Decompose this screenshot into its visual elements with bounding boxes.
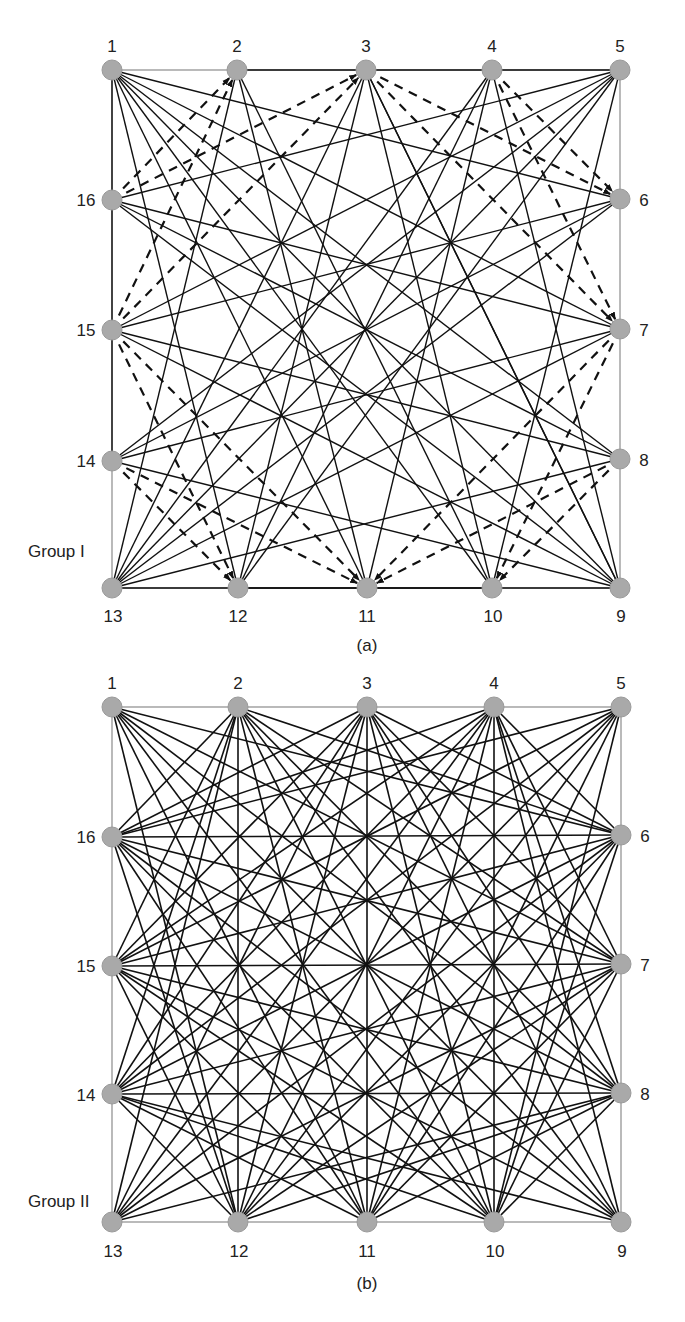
node-label-16: 16 (77, 192, 96, 209)
dashed-edge (112, 330, 359, 580)
node-label-11: 11 (358, 1243, 376, 1260)
node-label-9: 9 (617, 1243, 626, 1260)
node-10 (484, 1212, 504, 1232)
node-4 (482, 60, 502, 80)
node-label-7: 7 (640, 957, 649, 974)
node-label-14: 14 (77, 1087, 96, 1104)
node-9 (610, 578, 630, 598)
node-label-4: 4 (489, 675, 498, 692)
edge (112, 707, 494, 837)
graph-canvas-b (0, 660, 685, 1322)
node-12 (228, 1212, 248, 1232)
node-label-1: 1 (107, 675, 116, 692)
edge (112, 837, 238, 1222)
node-label-11: 11 (358, 608, 376, 625)
node-16 (102, 827, 122, 847)
dashed-edge (492, 70, 615, 319)
node-7 (610, 319, 630, 339)
group-label-b: Group II (28, 1193, 89, 1210)
edge (112, 835, 621, 837)
node-6 (610, 189, 630, 209)
node-14 (102, 451, 122, 471)
node-3 (356, 60, 376, 80)
dashed-edge (112, 78, 358, 330)
node-label-5: 5 (616, 675, 625, 692)
node-11 (357, 578, 377, 598)
dashed-edge (112, 461, 357, 583)
dashed-edge (112, 75, 356, 200)
node-16 (102, 190, 122, 210)
node-label-1: 1 (107, 38, 116, 55)
node-5 (610, 60, 630, 80)
node-label-12: 12 (229, 608, 248, 625)
node-label-6: 6 (639, 192, 648, 209)
node-15 (102, 956, 122, 976)
node-label-10: 10 (484, 608, 503, 625)
node-label-16: 16 (77, 829, 96, 846)
node-1 (102, 60, 122, 80)
node-label-7: 7 (639, 322, 648, 339)
node-7 (611, 954, 631, 974)
figure-b-group-ii-graph: Group II (b) 12345678910111213141516 (0, 660, 685, 1322)
node-label-12: 12 (230, 1243, 249, 1260)
node-label-8: 8 (640, 1086, 649, 1103)
node-2 (227, 60, 247, 80)
dashed-edge (500, 459, 620, 580)
node-8 (610, 449, 630, 469)
node-label-2: 2 (232, 38, 241, 55)
node-label-4: 4 (487, 38, 496, 55)
node-14 (102, 1084, 122, 1104)
node-3 (357, 697, 377, 717)
caption-b: (b) (357, 1275, 378, 1292)
node-label-15: 15 (77, 322, 96, 339)
node-4 (484, 697, 504, 717)
node-6 (611, 825, 631, 845)
node-2 (228, 697, 248, 717)
node-8 (611, 1083, 631, 1103)
node-label-5: 5 (615, 38, 624, 55)
node-label-3: 3 (362, 675, 371, 692)
node-1 (102, 697, 122, 717)
node-11 (357, 1212, 377, 1232)
dashed-edge (112, 78, 229, 200)
caption-a: (a) (357, 637, 378, 654)
node-label-14: 14 (77, 453, 96, 470)
node-label-9: 9 (616, 608, 625, 625)
node-label-6: 6 (640, 828, 649, 845)
group-label-a: Group I (28, 543, 85, 560)
dashed-edge (366, 70, 612, 321)
node-label-3: 3 (361, 38, 370, 55)
node-9 (611, 1212, 631, 1232)
figure-a-group-i-graph: Group I (a) 12345678910111213141516 (0, 0, 685, 660)
node-label-10: 10 (486, 1243, 505, 1260)
graph-canvas-a (0, 0, 685, 660)
node-label-13: 13 (104, 1243, 123, 1260)
node-15 (102, 320, 122, 340)
edge (366, 70, 620, 588)
node-12 (228, 578, 248, 598)
node-label-15: 15 (77, 958, 96, 975)
edge (112, 837, 367, 1222)
node-13 (102, 1212, 122, 1232)
dashed-edge (492, 70, 612, 191)
node-5 (611, 697, 631, 717)
node-13 (102, 578, 122, 598)
dashed-edge (375, 329, 620, 580)
node-label-8: 8 (639, 452, 648, 469)
node-label-13: 13 (104, 608, 123, 625)
node-label-2: 2 (233, 675, 242, 692)
node-10 (482, 578, 502, 598)
